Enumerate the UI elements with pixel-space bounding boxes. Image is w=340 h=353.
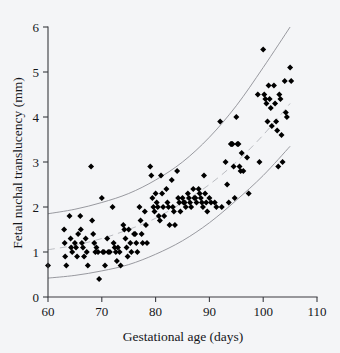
x-tick-label: 60 xyxy=(42,304,55,319)
data-point xyxy=(161,213,167,219)
data-point xyxy=(196,186,202,192)
data-point xyxy=(278,132,284,138)
data-point xyxy=(142,209,148,215)
data-point xyxy=(204,209,210,215)
data-point xyxy=(136,204,142,210)
data-point xyxy=(126,227,132,233)
data-point xyxy=(265,119,271,125)
y-tick-label: 5 xyxy=(33,65,40,80)
data-point xyxy=(219,204,225,210)
data-point xyxy=(62,254,68,260)
data-point xyxy=(231,164,237,170)
y-tick-label: 3 xyxy=(33,155,40,170)
data-point xyxy=(223,159,229,165)
data-point xyxy=(187,200,193,206)
data-point xyxy=(224,182,230,188)
data-point xyxy=(170,204,176,210)
reference-curve-upper-boundary xyxy=(48,27,290,214)
data-point xyxy=(267,96,273,102)
data-point xyxy=(287,65,293,71)
data-point xyxy=(235,141,241,147)
data-point xyxy=(160,204,166,210)
data-point xyxy=(99,195,105,201)
data-point xyxy=(174,168,180,174)
x-tick-label: 100 xyxy=(253,304,273,319)
data-point xyxy=(273,119,279,125)
data-point xyxy=(138,218,144,224)
data-point xyxy=(276,92,282,98)
data-point xyxy=(244,155,250,161)
data-point xyxy=(67,213,73,219)
tick-labels-layer: 607080901001100123456 xyxy=(33,20,327,320)
data-point xyxy=(110,204,116,210)
data-point xyxy=(128,249,134,255)
data-point xyxy=(188,204,194,210)
data-point xyxy=(77,213,83,219)
data-point xyxy=(266,83,272,89)
data-point xyxy=(120,222,126,228)
data-point xyxy=(85,263,91,269)
data-points-layer xyxy=(45,47,294,283)
data-point xyxy=(159,191,165,197)
data-point xyxy=(233,114,239,120)
data-point xyxy=(153,191,159,197)
data-point xyxy=(125,254,131,260)
data-point xyxy=(69,249,75,255)
data-point xyxy=(139,231,145,237)
data-point xyxy=(61,227,67,233)
data-point xyxy=(68,236,74,242)
data-point xyxy=(143,222,149,228)
x-tick-label: 90 xyxy=(203,304,216,319)
data-point xyxy=(164,200,170,206)
data-point xyxy=(163,186,169,192)
data-point xyxy=(201,173,207,179)
data-point xyxy=(256,159,262,165)
x-tick-label: 80 xyxy=(149,304,162,319)
data-point xyxy=(190,186,196,192)
data-point xyxy=(80,245,86,251)
data-point xyxy=(177,209,183,215)
data-point xyxy=(144,240,150,246)
data-point xyxy=(155,204,161,210)
data-point xyxy=(79,240,85,246)
x-tick-label: 110 xyxy=(307,304,326,319)
data-point xyxy=(280,159,286,165)
data-point xyxy=(102,263,108,269)
y-tick-label: 4 xyxy=(33,110,40,125)
y-tick-label: 2 xyxy=(33,200,40,215)
data-point xyxy=(172,222,178,228)
data-point xyxy=(277,96,283,102)
data-point xyxy=(154,200,160,206)
data-point xyxy=(169,177,175,183)
data-point xyxy=(288,78,294,84)
data-point xyxy=(275,164,281,170)
data-point xyxy=(198,195,204,201)
data-point xyxy=(88,164,94,170)
data-point xyxy=(167,222,173,228)
y-tick-label: 1 xyxy=(33,245,40,260)
data-point xyxy=(284,114,290,120)
data-point xyxy=(237,164,243,170)
data-point xyxy=(271,83,277,89)
data-point xyxy=(255,92,261,98)
x-axis-title: Gestational age (days) xyxy=(123,329,244,344)
data-point xyxy=(268,105,274,111)
data-point xyxy=(63,263,69,269)
data-point xyxy=(133,240,139,246)
reference-curve-median xyxy=(48,104,290,250)
data-point xyxy=(134,249,140,255)
data-point xyxy=(274,128,280,134)
data-point xyxy=(202,191,208,197)
data-point xyxy=(263,101,269,107)
data-point xyxy=(122,236,128,242)
data-point xyxy=(197,191,203,197)
data-point xyxy=(282,78,288,84)
data-point xyxy=(90,231,96,237)
data-point xyxy=(74,254,80,260)
y-axis-title: Fetal nuchal translucency (mm) xyxy=(10,77,25,248)
data-point xyxy=(200,204,206,210)
data-point xyxy=(124,245,130,251)
scatter-plot: 607080901001100123456 Gestational age (d… xyxy=(0,0,340,353)
data-point xyxy=(114,258,120,264)
data-point xyxy=(283,110,289,116)
